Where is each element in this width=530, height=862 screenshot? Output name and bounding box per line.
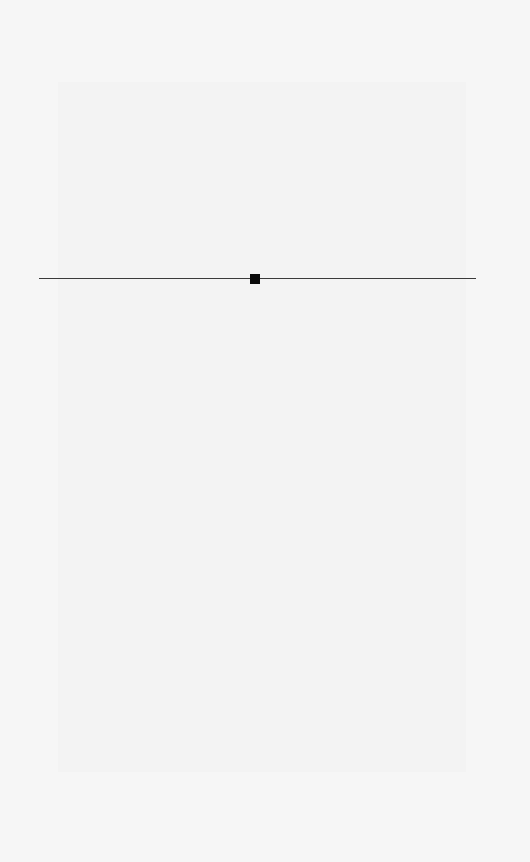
drag-handle-square[interactable] (250, 274, 260, 284)
page-ghost-area (58, 82, 466, 772)
